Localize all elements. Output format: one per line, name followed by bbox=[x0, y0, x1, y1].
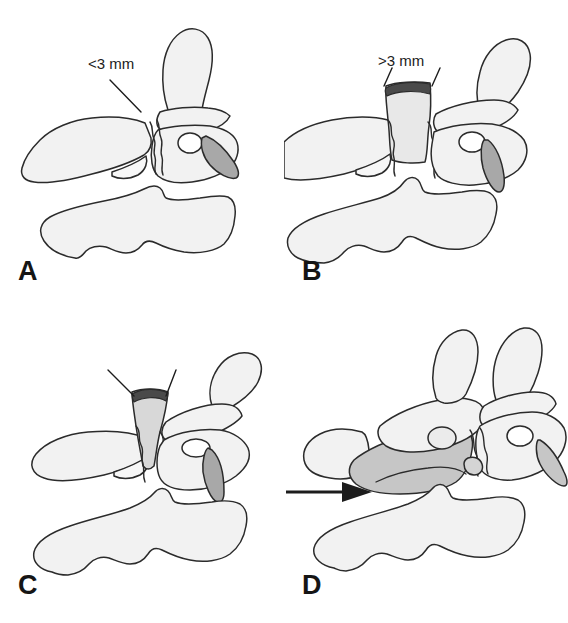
vertebral-foramen bbox=[178, 133, 202, 153]
lower-vertebra-body bbox=[41, 186, 236, 258]
leader-line-c-left bbox=[108, 370, 134, 396]
figure-root: <3 mm A bbox=[0, 0, 568, 623]
leader-line-b-right bbox=[432, 68, 440, 86]
panel-b-illustration bbox=[284, 0, 568, 300]
leader-line-b-left bbox=[384, 68, 392, 86]
panel-d-illustration bbox=[284, 300, 568, 623]
panel-b: >3 mm B bbox=[284, 0, 568, 300]
leader-line-a bbox=[110, 80, 141, 112]
panel-letter-b: B bbox=[302, 258, 322, 285]
panel-c-illustration bbox=[0, 300, 284, 623]
vertebral-foramen-1 bbox=[428, 427, 456, 449]
measurement-label-a: <3 mm bbox=[88, 56, 134, 71]
panel-letter-d: D bbox=[302, 572, 322, 599]
lower-vertebra-body bbox=[34, 489, 247, 575]
lower-vertebra-body bbox=[287, 178, 496, 263]
panel-letter-a: A bbox=[18, 258, 38, 285]
spinous-process-1 bbox=[433, 330, 478, 403]
panel-letter-c: C bbox=[18, 572, 38, 599]
vertebral-foramen-2 bbox=[507, 426, 533, 446]
articular-nodule bbox=[464, 457, 483, 475]
panel-a: <3 mm A bbox=[0, 0, 284, 300]
panel-a-illustration bbox=[0, 0, 284, 300]
odontoid-process bbox=[210, 353, 261, 410]
panel-d: D bbox=[284, 300, 568, 623]
axis-body bbox=[431, 123, 527, 185]
odontoid-process bbox=[163, 29, 213, 112]
panel-c: C bbox=[0, 300, 284, 623]
measurement-label-b: >3 mm bbox=[378, 53, 424, 68]
leader-line-c-right bbox=[166, 370, 176, 396]
